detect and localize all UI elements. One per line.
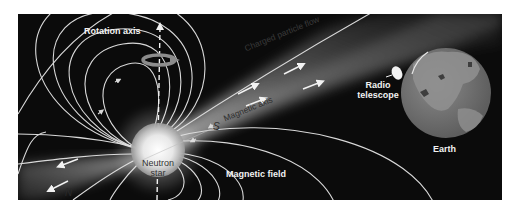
rotation-arrow-icon <box>143 55 180 65</box>
magnetic-field-label: Magnetic field <box>226 169 286 179</box>
earth-globe-icon <box>401 48 491 138</box>
pulsar-diagram: Rotation axis Charged particle flow Magn… <box>18 14 502 200</box>
neutron-star-label: Neutron star <box>130 158 186 178</box>
neutron-star-label-line1: Neutron <box>130 158 186 168</box>
neutron-star-label-line2: star <box>130 168 186 178</box>
north-pole-label: N <box>65 188 72 198</box>
radio-telescope-label-line2: telescope <box>356 90 400 100</box>
rotation-axis-label: Rotation axis <box>84 26 141 36</box>
earth-label: Earth <box>433 144 456 154</box>
south-pole-label: S <box>213 122 220 132</box>
radio-telescope-label-line1: Radio <box>356 80 400 90</box>
radio-telescope-label: Radio telescope <box>356 80 400 100</box>
